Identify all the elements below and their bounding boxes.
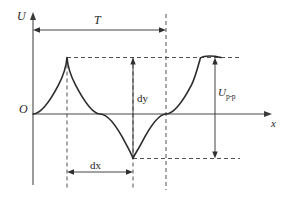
dx-label: dx [90,160,101,171]
waveform-diagram: U x O T dy dx Up-p [0,0,285,212]
waveform-diagram-canvas [0,0,285,212]
upp-arrowhead-top [212,58,217,65]
dy-arrowhead-top [130,58,135,65]
axes-group [30,12,272,185]
period-label: T [94,14,101,26]
period-arrowhead-right [159,27,166,33]
y-axis-arrowhead [30,12,36,20]
dy-dimension-group [130,58,135,159]
y-axis-label: U [17,10,26,22]
period-arrowhead-left [33,27,40,33]
upp-dimension-group [212,58,217,159]
dy-label: dy [137,93,148,104]
upp-label-subscript: p-p [226,92,235,101]
upp-arrowhead-bottom [212,152,217,159]
origin-label: O [19,103,28,115]
period-dimension-group [33,27,166,33]
sine-waveform-curve [33,56,221,159]
dx-arrowhead-left [67,169,74,175]
upp-label-base: U [218,86,226,98]
x-axis-label: x [271,118,276,129]
dx-arrowhead-right [126,169,133,175]
upp-label: Up-p [218,87,235,101]
